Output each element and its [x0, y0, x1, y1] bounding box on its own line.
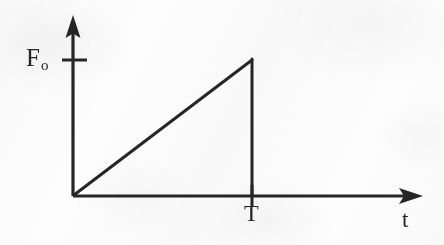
period-label: T	[244, 201, 259, 225]
force-amplitude-label-subscript: o	[41, 57, 49, 73]
time-axis-label: t	[402, 208, 408, 231]
ramp-rise-line	[74, 60, 252, 195]
force-amplitude-label-main: F	[26, 44, 40, 71]
ramp-force-diagram	[0, 0, 444, 245]
force-amplitude-label: Fo	[26, 45, 47, 70]
figure-canvas: Fo T t	[0, 0, 444, 245]
